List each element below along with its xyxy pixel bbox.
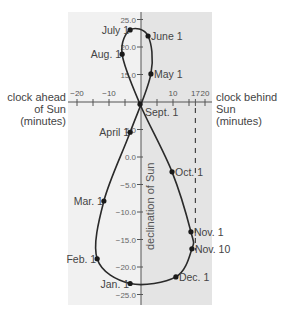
date-label: Dec. 1 bbox=[179, 271, 210, 283]
label-line: (minutes) bbox=[216, 115, 281, 127]
y-tick-label: −25.0 bbox=[116, 291, 137, 300]
y-tick-label: −5.0 bbox=[120, 181, 136, 190]
label-line: clock ahead bbox=[4, 91, 66, 103]
analemma-chart: 25.020.015.05.00.0−5.0−10.0−15.0−20.0−25… bbox=[0, 0, 281, 312]
y-tick-label: −15.0 bbox=[116, 236, 137, 245]
date-point bbox=[169, 169, 174, 174]
date-label: May 1 bbox=[154, 68, 183, 80]
label-line: (minutes) bbox=[4, 115, 66, 127]
date-point bbox=[148, 71, 153, 76]
date-point bbox=[188, 229, 193, 234]
date-point bbox=[189, 246, 194, 251]
x-tick-label: −20 bbox=[70, 89, 84, 98]
date-label: April 1 bbox=[99, 126, 129, 138]
x-axis-label-right: clock behind Sun (minutes) bbox=[216, 91, 281, 127]
x-tick-label: 10 bbox=[169, 89, 178, 98]
label-line: Sun bbox=[216, 103, 281, 115]
date-label: July 1 bbox=[102, 24, 130, 36]
y-tick-label: −10.0 bbox=[116, 208, 137, 217]
date-label: Nov. 1 bbox=[194, 226, 224, 238]
date-point bbox=[145, 33, 150, 38]
y-axis-title: declination of Sun bbox=[144, 163, 156, 250]
date-label: Aug. 1 bbox=[91, 48, 122, 60]
date-point bbox=[137, 102, 142, 107]
date-label: Sept. 1 bbox=[145, 106, 178, 118]
label-line: of Sun bbox=[4, 103, 66, 115]
date-label: Jan. 1 bbox=[101, 278, 130, 290]
date-label: Feb. 1 bbox=[66, 253, 96, 265]
date-point bbox=[173, 274, 178, 279]
date-label: Oct. 1 bbox=[175, 166, 203, 178]
date-label: Mar. 1 bbox=[74, 195, 103, 207]
y-tick-label: 0.0 bbox=[125, 153, 137, 162]
label-line: clock behind bbox=[216, 91, 281, 103]
x-tick-label: 20 bbox=[201, 89, 210, 98]
x-tick-label: 17 bbox=[191, 89, 200, 98]
date-label: June 1 bbox=[151, 30, 183, 42]
y-tick-label: −20.0 bbox=[116, 263, 137, 272]
date-label: Nov. 10 bbox=[195, 243, 231, 255]
x-tick-label: −10 bbox=[102, 89, 116, 98]
x-axis-label-left: clock ahead of Sun (minutes) bbox=[4, 91, 66, 127]
